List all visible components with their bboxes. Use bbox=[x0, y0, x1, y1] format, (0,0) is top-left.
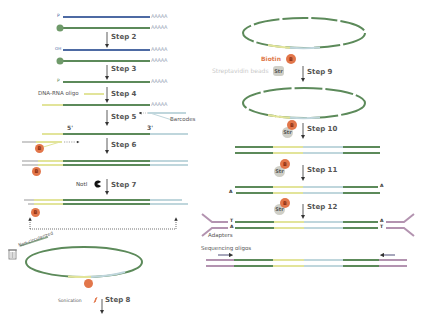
step2-label: Step 2 bbox=[111, 34, 136, 41]
cap-icon bbox=[57, 58, 64, 65]
biotin-bead: B bbox=[286, 54, 296, 64]
phosphate-label: P bbox=[57, 14, 60, 19]
step10-duplex bbox=[235, 147, 380, 153]
a-overhang-left: A bbox=[229, 190, 232, 195]
a-overhang-left: A bbox=[230, 225, 233, 230]
polya-tail-label: AAAAA bbox=[151, 102, 167, 107]
sonication-icon bbox=[94, 297, 97, 303]
t-overhang-left: T bbox=[230, 219, 233, 224]
hydroxyl-label: OH bbox=[55, 47, 61, 51]
fragmented-circle-bound bbox=[243, 88, 365, 118]
biotin-bead bbox=[84, 279, 93, 288]
polya-tail-label: AAAAA bbox=[151, 14, 167, 19]
barcodes-label: Barcodes bbox=[170, 117, 195, 123]
biotin-bead: B bbox=[287, 120, 297, 130]
biotin-label: Biotin bbox=[261, 56, 281, 62]
cap-icon bbox=[57, 25, 64, 32]
step6-label: Step 6 bbox=[111, 142, 136, 149]
step5-label: Step 5 bbox=[111, 114, 136, 121]
biotin-bead: B bbox=[280, 198, 290, 208]
step8-label: Step 8 bbox=[105, 297, 130, 304]
step9-label: Step 9 bbox=[307, 69, 332, 76]
circularization-bracket bbox=[30, 219, 176, 229]
sonication-label: Sonication bbox=[58, 299, 82, 304]
adapters-label: Adapters bbox=[208, 233, 233, 239]
library-prep-workflow-diagram: P AAAAA AAAAA Step 2 OH AAAAA AAAAA Step… bbox=[0, 0, 428, 316]
step10-label: Step 10 bbox=[307, 126, 337, 133]
a-overhang-right: A bbox=[380, 219, 383, 224]
step7-duplex bbox=[24, 200, 188, 204]
polya-tail-label: AAAAA bbox=[151, 47, 167, 52]
phosphate-label: P bbox=[57, 79, 60, 84]
t-overhang-right: T bbox=[380, 225, 383, 230]
diagram-graphics bbox=[0, 0, 428, 316]
sequencing-oligos-label: Sequencing oligos bbox=[201, 246, 251, 252]
dna-rna-oligo-label: DNA-RNA oligo bbox=[38, 91, 79, 97]
final-library-molecule bbox=[206, 260, 407, 266]
biotin-bead: B bbox=[32, 167, 41, 176]
step1-molecules bbox=[57, 17, 151, 32]
step12-duplex bbox=[235, 222, 378, 228]
step2-molecules bbox=[57, 50, 151, 65]
step11-label: Step 11 bbox=[307, 167, 337, 174]
polya-tail-label: AAAAA bbox=[151, 79, 167, 84]
step7-label: Step 7 bbox=[111, 182, 136, 189]
step6-duplex bbox=[22, 161, 188, 165]
step3-label: Step 3 bbox=[111, 66, 136, 73]
a-overhang-right: A bbox=[380, 184, 383, 189]
biotin-bead: B bbox=[35, 144, 44, 153]
trash-icon bbox=[8, 250, 17, 259]
noti-label: NotI bbox=[76, 182, 87, 188]
fragmented-circle-top bbox=[243, 18, 365, 48]
three-prime-label: 3' bbox=[147, 125, 153, 131]
biotin-bead: B bbox=[31, 208, 40, 217]
polya-tail-label: AAAAA bbox=[151, 25, 167, 30]
adapter-right bbox=[386, 214, 414, 236]
polya-tail-label: AAAAA bbox=[151, 58, 167, 63]
streptavidin-beads-label: Streptavidin beads bbox=[212, 68, 269, 74]
biotin-bead: B bbox=[280, 159, 290, 169]
step11-duplex bbox=[235, 187, 380, 193]
five-prime-label: 5' bbox=[67, 125, 73, 131]
noti-enzyme-icon bbox=[94, 180, 101, 187]
step4-label: Step 4 bbox=[111, 91, 136, 98]
circular-molecule bbox=[26, 247, 142, 277]
step12-label: Step 12 bbox=[307, 204, 337, 211]
streptavidin-bead: Str bbox=[273, 66, 284, 76]
